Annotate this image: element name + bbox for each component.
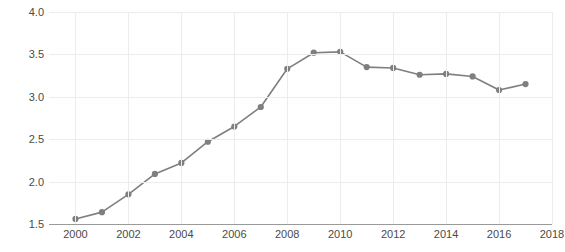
- data-series-line: [49, 12, 552, 224]
- gridline-vertical: [552, 12, 553, 224]
- data-point-marker: [417, 72, 423, 78]
- plot-area: [49, 12, 552, 224]
- gridline-horizontal: [49, 54, 552, 55]
- data-point-marker: [152, 171, 158, 177]
- line-chart: Billions of dollars 1.52.02.53.03.54.0 2…: [0, 0, 565, 252]
- gridline-vertical: [128, 12, 129, 224]
- data-point-marker: [522, 81, 528, 87]
- x-tick-label: 2000: [50, 228, 100, 240]
- y-tick-label: 1.5: [18, 218, 44, 230]
- x-tick-label: 2018: [527, 228, 565, 240]
- gridline-horizontal: [49, 139, 552, 140]
- data-point-marker: [364, 64, 370, 70]
- gridline-horizontal: [49, 12, 552, 13]
- y-tick-label: 3.0: [18, 91, 44, 103]
- data-point-marker: [99, 209, 105, 215]
- gridline-vertical: [75, 12, 76, 224]
- x-tick-label: 2008: [262, 228, 312, 240]
- x-tick-label: 2004: [156, 228, 206, 240]
- data-point-marker: [469, 73, 475, 79]
- x-axis-baseline: [49, 224, 552, 225]
- gridline-vertical: [446, 12, 447, 224]
- series-polyline: [75, 52, 525, 219]
- x-tick-label: 2016: [474, 228, 524, 240]
- gridline-vertical: [499, 12, 500, 224]
- x-tick-label: 2012: [368, 228, 418, 240]
- y-tick-label: 2.0: [18, 176, 44, 188]
- y-axis-tick-labels: 1.52.02.53.03.54.0: [14, 0, 44, 252]
- gridline-vertical: [234, 12, 235, 224]
- x-tick-label: 2002: [103, 228, 153, 240]
- x-tick-label: 2006: [209, 228, 259, 240]
- x-tick-label: 2010: [315, 228, 365, 240]
- gridline-horizontal: [49, 97, 552, 98]
- y-tick-label: 2.5: [18, 133, 44, 145]
- gridline-vertical: [393, 12, 394, 224]
- gridline-horizontal: [49, 182, 552, 183]
- gridline-vertical: [287, 12, 288, 224]
- gridline-vertical: [340, 12, 341, 224]
- data-point-marker: [258, 104, 264, 110]
- x-tick-label: 2014: [421, 228, 471, 240]
- y-tick-label: 3.5: [18, 48, 44, 60]
- y-tick-label: 4.0: [18, 6, 44, 18]
- gridline-vertical: [181, 12, 182, 224]
